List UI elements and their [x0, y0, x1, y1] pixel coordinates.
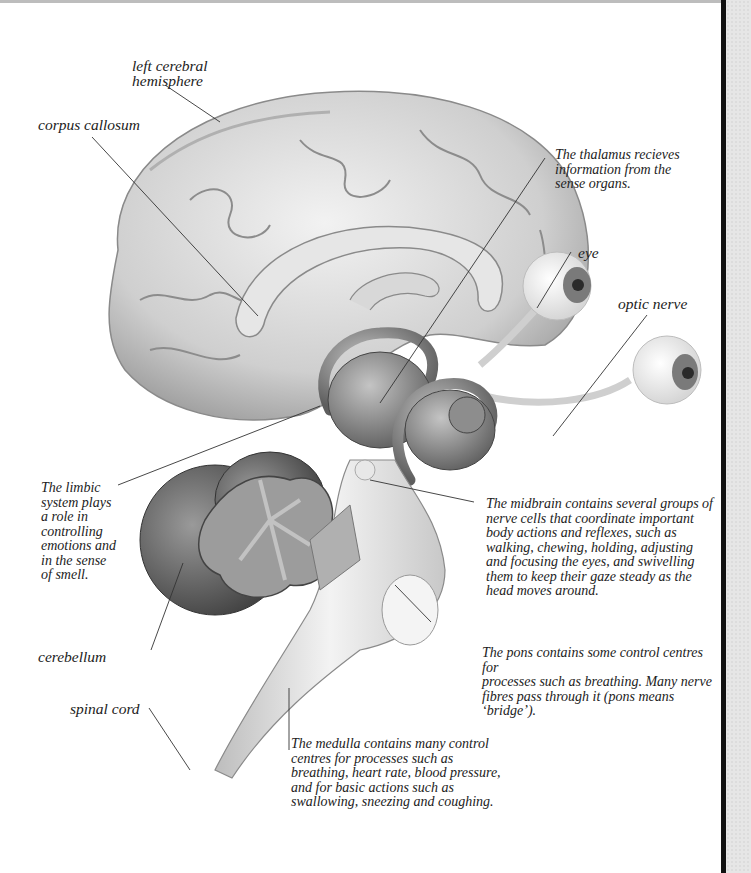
label-cerebellum: cerebellum	[38, 649, 106, 664]
label-midbrain: The midbrain contains several groups of …	[486, 497, 713, 599]
label-optic-nerve: optic nerve	[618, 296, 687, 311]
page-margin	[726, 0, 751, 873]
label-limbic-system: The limbic system plays a role in contro…	[41, 481, 116, 583]
label-eye: eye	[578, 245, 599, 260]
label-corpus-callosum: corpus callosum	[38, 117, 140, 132]
diagram-page: left cerebral hemisphere corpus callosum…	[0, 0, 721, 873]
cerebellum-shape	[140, 452, 334, 615]
label-spinal-cord: spinal cord	[70, 701, 140, 716]
label-medulla: The medulla contains many control centre…	[291, 737, 501, 810]
label-left-cerebral-hemisphere: left cerebral hemisphere	[132, 58, 208, 88]
label-thalamus: The thalamus recieves information from t…	[555, 148, 680, 192]
label-pons: The pons contains some control centres f…	[482, 646, 721, 719]
